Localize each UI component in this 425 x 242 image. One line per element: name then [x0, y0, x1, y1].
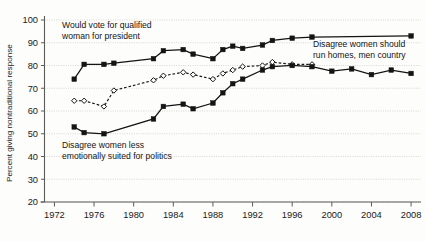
x-tick-label-2004: 2004	[361, 210, 382, 220]
data-point	[230, 67, 235, 72]
data-point	[102, 131, 107, 136]
y-tick-label-20: 20	[28, 197, 38, 207]
series-2	[72, 63, 413, 136]
annot-vote-woman-president: Would vote for qualifiedwoman for presid…	[61, 20, 152, 41]
y-tick-label-70: 70	[28, 84, 38, 94]
series-line-1	[74, 62, 312, 106]
data-point	[112, 61, 117, 66]
data-point	[260, 68, 265, 73]
data-point	[230, 44, 235, 49]
data-point	[82, 62, 87, 67]
data-point	[330, 69, 335, 74]
data-point	[72, 77, 77, 82]
data-point	[101, 104, 106, 109]
data-point	[211, 56, 216, 61]
data-point	[270, 59, 275, 64]
y-tick-labels: 2030405060708090100	[22, 15, 38, 207]
data-point	[409, 71, 414, 76]
y-tick-label-80: 80	[28, 61, 38, 71]
data-point	[221, 91, 226, 96]
data-point	[290, 63, 295, 68]
annot-run-homes: Disagree women shouldrun homes, men coun…	[313, 39, 406, 60]
data-point	[181, 102, 186, 107]
data-point	[151, 78, 156, 83]
data-point	[72, 125, 77, 130]
annot-emotionally-suited-line-1: emotionally suited for politics	[62, 151, 172, 161]
data-point	[191, 52, 196, 57]
data-point	[102, 62, 107, 67]
data-point	[82, 130, 87, 135]
data-point	[151, 56, 156, 61]
series-line-2	[74, 66, 411, 134]
data-point	[181, 47, 186, 52]
data-point	[210, 76, 215, 81]
data-point	[181, 70, 186, 75]
y-tick-label-40: 40	[28, 152, 38, 162]
data-point	[349, 67, 354, 72]
data-point	[211, 101, 216, 106]
data-point	[72, 98, 77, 103]
x-tick-label-2000: 2000	[321, 210, 342, 220]
annot-emotionally-suited: Disagree women lessemotionally suited fo…	[62, 140, 172, 161]
x-tick-label-1988: 1988	[203, 210, 224, 220]
data-point	[161, 73, 166, 78]
y-tick-label-90: 90	[28, 38, 38, 48]
data-point	[161, 48, 166, 53]
data-point	[221, 47, 226, 52]
y-axis	[41, 16, 45, 202]
data-point	[389, 68, 394, 73]
data-point	[230, 81, 235, 86]
data-point	[81, 98, 86, 103]
annot-run-homes-line-0: Disagree women should	[313, 39, 405, 49]
data-point	[310, 64, 315, 69]
data-point	[240, 46, 245, 51]
annot-vote-woman-president-line-0: Would vote for qualified	[62, 20, 152, 30]
data-point	[111, 88, 116, 93]
y-axis-label: Percent giving nontraditional response	[5, 44, 14, 182]
y-tick-label-30: 30	[28, 175, 38, 185]
data-point	[191, 106, 196, 111]
data-point	[151, 117, 156, 122]
x-tick-label-1972: 1972	[44, 210, 65, 220]
x-tick-label-2008: 2008	[401, 210, 422, 220]
data-point	[240, 77, 245, 82]
x-tick-label-1992: 1992	[242, 210, 263, 220]
annot-vote-woman-president-line-1: woman for president	[61, 31, 140, 41]
data-point	[270, 64, 275, 69]
annot-run-homes-line-1: run homes, men country	[313, 50, 406, 60]
chart-plot-svg: 2030405060708090100 19721976198019841988…	[0, 0, 425, 242]
data-point	[290, 36, 295, 41]
data-point	[220, 71, 225, 76]
x-tick-label-1996: 1996	[282, 210, 303, 220]
x-axis	[41, 202, 422, 207]
data-point	[369, 72, 374, 77]
data-point	[260, 63, 265, 68]
data-point	[260, 43, 265, 48]
data-point	[270, 38, 275, 43]
chart-container: 2030405060708090100 19721976198019841988…	[0, 0, 425, 242]
data-point	[409, 34, 414, 39]
x-tick-label-1984: 1984	[163, 210, 184, 220]
data-point	[190, 72, 195, 77]
annot-emotionally-suited-line-0: Disagree women less	[62, 140, 144, 150]
x-tick-label-1976: 1976	[84, 210, 105, 220]
y-tick-label-100: 100	[22, 15, 38, 25]
x-tick-label-1980: 1980	[123, 210, 144, 220]
y-tick-label-60: 60	[28, 106, 38, 116]
data-point	[161, 104, 166, 109]
x-tick-labels: 1972197619801984198819921996200020042008	[44, 210, 421, 220]
y-tick-label-50: 50	[28, 129, 38, 139]
data-point	[240, 64, 245, 69]
